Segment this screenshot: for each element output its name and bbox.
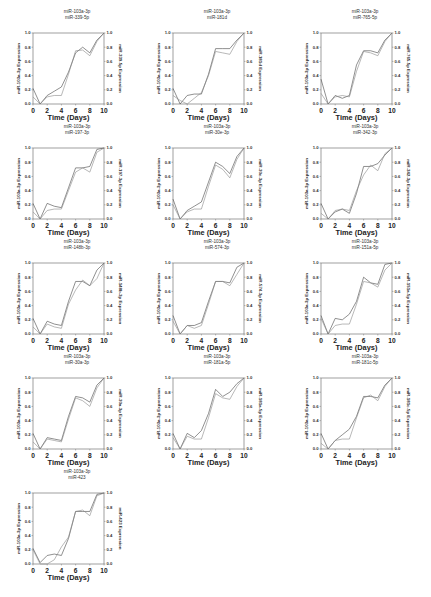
y-axis-label-right: miR-148b-3p Expression: [118, 273, 123, 325]
chart-panel: miR-103a-3pmiR-574-3p0.00.00.20.20.40.40…: [152, 236, 282, 351]
y-axis-label-left: miR-103a-3p Expression: [156, 273, 161, 324]
x-tick: 0: [171, 222, 175, 229]
y-tick-right: 0.2: [107, 317, 113, 322]
chart-panel: miR-103a-3pmiR-148b-3p0.00.00.20.20.40.4…: [12, 236, 142, 351]
plot-frame: [173, 33, 244, 104]
y-tick-left: 1.0: [165, 260, 171, 265]
y-tick-left: 0.8: [25, 390, 31, 395]
x-tick: 10: [100, 567, 108, 574]
x-tick: 10: [388, 337, 396, 344]
y-tick-left: 0.4: [165, 188, 171, 193]
y-tick-left: 0.4: [165, 303, 171, 308]
y-tick-left: 0.6: [25, 174, 31, 179]
y-tick-right: 0.4: [247, 303, 253, 308]
y-tick-left: 0.2: [313, 87, 319, 92]
y-tick-left: 1.0: [165, 30, 171, 35]
x-tick: 0: [319, 222, 323, 229]
y-tick-right: 0.6: [107, 519, 113, 524]
y-axis-label-left: miR-103a-3p Expression: [304, 43, 309, 94]
y-tick-right: 0.4: [107, 418, 113, 423]
y-tick-right: 1.0: [395, 30, 401, 35]
y-axis-label-right: miR-574-3p Expression: [258, 274, 263, 323]
y-axis-label-right: miR-423 Expression: [118, 508, 123, 550]
y-tick-right: 0.2: [107, 432, 113, 437]
x-tick: 10: [100, 452, 108, 459]
line-plot: 0.00.00.20.20.40.40.60.60.80.81.01.00246…: [12, 236, 142, 351]
line-plot: 0.00.00.20.20.40.40.60.60.80.81.01.00246…: [152, 351, 282, 466]
y-tick-right: 0.8: [107, 390, 113, 395]
line-plot: 0.00.00.20.20.40.40.60.60.80.81.01.00246…: [300, 6, 430, 121]
y-tick-right: 0.4: [395, 303, 401, 308]
y-tick-left: 0.6: [25, 404, 31, 409]
y-tick-left: 1.0: [25, 490, 31, 495]
chart-panel: miR-103a-3pmiR-765-5p0.00.00.20.20.40.40…: [300, 6, 430, 121]
y-tick-right: 0.8: [247, 160, 253, 165]
y-tick-right: 0.4: [395, 73, 401, 78]
y-tick-left: 0.8: [25, 160, 31, 165]
chart-panel: miR-103a-3pmiR-30a-3p0.00.00.20.20.40.40…: [12, 351, 142, 466]
y-tick-left: 0.4: [313, 73, 319, 78]
y-tick-right: 1.0: [247, 375, 253, 380]
y-tick-right: 0.8: [395, 275, 401, 280]
y-tick-left: 0.8: [313, 160, 319, 165]
line-plot: 0.00.00.20.20.40.40.60.60.80.81.01.00246…: [12, 121, 142, 236]
x-tick: 10: [240, 452, 248, 459]
y-tick-left: 0.2: [25, 202, 31, 207]
x-tick: 0: [31, 107, 35, 114]
y-axis-label-left: miR-103a-3p Expression: [16, 158, 21, 209]
plot-frame: [321, 378, 392, 449]
y-tick-right: 1.0: [247, 30, 253, 35]
y-tick-right: 0.4: [107, 73, 113, 78]
y-tick-left: 0.2: [25, 432, 31, 437]
x-tick: 10: [100, 222, 108, 229]
y-tick-right: 0.4: [107, 303, 113, 308]
line-plot: 0.00.00.20.20.40.40.60.60.80.81.01.00246…: [12, 6, 142, 121]
y-tick-left: 1.0: [25, 375, 31, 380]
y-tick-left: 0.8: [313, 45, 319, 50]
y-tick-left: 0.6: [313, 404, 319, 409]
plot-frame: [33, 263, 104, 334]
y-tick-left: 0.2: [165, 202, 171, 207]
x-tick: 0: [31, 337, 35, 344]
y-axis-label-right: miR-342-3p Expression: [406, 159, 411, 208]
y-tick-left: 0.2: [313, 317, 319, 322]
x-tick: 0: [319, 337, 323, 344]
y-tick-left: 0.4: [165, 73, 171, 78]
y-tick-right: 1.0: [107, 490, 113, 495]
y-axis-label-left: miR-103a-3p Expression: [156, 158, 161, 209]
y-tick-left: 0.6: [313, 289, 319, 294]
x-tick: 0: [171, 452, 175, 459]
y-tick-right: 0.4: [395, 188, 401, 193]
line-plot: 0.00.00.20.20.40.40.60.60.80.81.01.00246…: [300, 351, 430, 466]
x-tick: 0: [319, 107, 323, 114]
y-tick-right: 1.0: [395, 145, 401, 150]
plot-frame: [33, 378, 104, 449]
y-tick-left: 0.4: [165, 418, 171, 423]
y-tick-right: 1.0: [247, 145, 253, 150]
y-tick-left: 1.0: [313, 145, 319, 150]
plot-frame: [173, 263, 244, 334]
x-tick: 0: [171, 337, 175, 344]
y-tick-left: 0.6: [165, 289, 171, 294]
y-tick-right: 0.2: [247, 432, 253, 437]
y-tick-right: 0.4: [247, 188, 253, 193]
chart-panel: miR-103a-3pmiR-197-3p0.00.00.20.20.40.40…: [12, 121, 142, 236]
y-tick-left: 0.8: [25, 45, 31, 50]
y-tick-right: 1.0: [107, 260, 113, 265]
line-plot: 0.00.00.20.20.40.40.60.60.80.81.01.00246…: [152, 236, 282, 351]
y-tick-right: 0.2: [395, 202, 401, 207]
y-tick-right: 0.2: [395, 317, 401, 322]
y-tick-left: 0.2: [25, 317, 31, 322]
x-axis-label: Time (Days): [48, 573, 90, 582]
y-tick-right: 0.8: [395, 160, 401, 165]
y-axis-label-right: miR-181c-5p Expression: [406, 388, 411, 439]
y-tick-left: 0.4: [25, 533, 31, 538]
x-tick: 10: [100, 107, 108, 114]
y-tick-right: 0.4: [395, 418, 401, 423]
y-tick-left: 0.2: [165, 87, 171, 92]
y-tick-left: 0.8: [313, 390, 319, 395]
x-tick: 10: [388, 452, 396, 459]
y-tick-left: 0.2: [165, 317, 171, 322]
y-tick-left: 0.6: [313, 59, 319, 64]
y-axis-label-left: miR-103a-3p Expression: [304, 273, 309, 324]
